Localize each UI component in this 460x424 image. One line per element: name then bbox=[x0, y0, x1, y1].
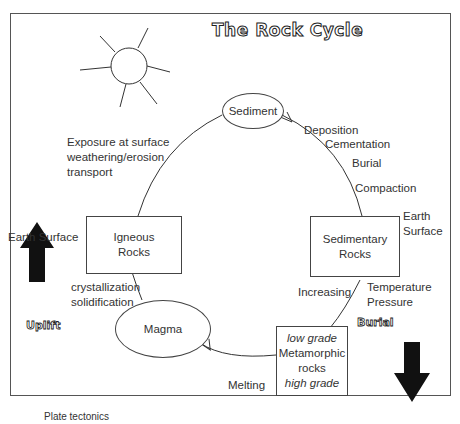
caption-plate-tectonics: Plate tectonics bbox=[44, 409, 109, 424]
label-earth-surface-right: Earth Surface bbox=[403, 209, 443, 239]
node-magma-label: Magma bbox=[144, 323, 182, 335]
node-metamorphic-rocks: low grade Metamorphic rocks high grade bbox=[276, 326, 348, 396]
label-melting: Melting bbox=[228, 378, 265, 393]
label-burial-step: Burial bbox=[352, 156, 381, 171]
metamorphic-line2: rocks bbox=[277, 361, 347, 376]
crystallization-line2: solidification bbox=[71, 295, 140, 310]
metamorphic-line1: Metamorphic bbox=[277, 346, 347, 361]
sun-icon bbox=[80, 28, 170, 107]
label-burial: Burial bbox=[357, 315, 394, 330]
sedimentary-line1: Sedimentary bbox=[311, 232, 399, 247]
sedimentary-line2: Rocks bbox=[311, 247, 399, 262]
metamorphic-low-grade: low grade bbox=[277, 331, 347, 346]
exposure-line2: weathering/erosion bbox=[67, 150, 169, 165]
label-compaction: Compaction bbox=[355, 181, 416, 196]
label-temp-pressure: Temperature Pressure bbox=[367, 280, 432, 310]
label-increasing: Increasing bbox=[298, 285, 351, 300]
metamorphic-high-grade: high grade bbox=[277, 376, 347, 391]
node-sediment-label: Sediment bbox=[229, 105, 278, 117]
label-cementation: Cementation bbox=[325, 137, 390, 152]
igneous-line2: Rocks bbox=[87, 245, 181, 260]
earth-surface-right-line1: Earth bbox=[403, 209, 443, 224]
node-sediment: Sediment bbox=[222, 93, 284, 129]
crystallization-line1: crystallization bbox=[71, 280, 140, 295]
pressure-label: Pressure bbox=[367, 295, 432, 310]
igneous-line1: Igneous bbox=[87, 230, 181, 245]
diagram-title: The Rock Cycle bbox=[212, 20, 363, 40]
label-crystallization: crystallization solidification bbox=[71, 280, 140, 310]
burial-arrow-icon bbox=[394, 342, 430, 402]
earth-surface-right-line2: Surface bbox=[403, 224, 443, 239]
node-sedimentary-rocks: Sedimentary Rocks bbox=[310, 216, 400, 277]
node-igneous-rocks: Igneous Rocks bbox=[86, 216, 182, 274]
temperature-label: Temperature bbox=[367, 280, 432, 295]
label-deposition: Deposition bbox=[304, 123, 358, 138]
label-exposure: Exposure at surface weathering/erosion t… bbox=[67, 135, 169, 180]
label-uplift: Uplift bbox=[26, 318, 60, 333]
exposure-line3: transport bbox=[67, 165, 169, 180]
exposure-line1: Exposure at surface bbox=[67, 135, 169, 150]
label-earth-surface-left: Earth Surface bbox=[8, 230, 78, 245]
